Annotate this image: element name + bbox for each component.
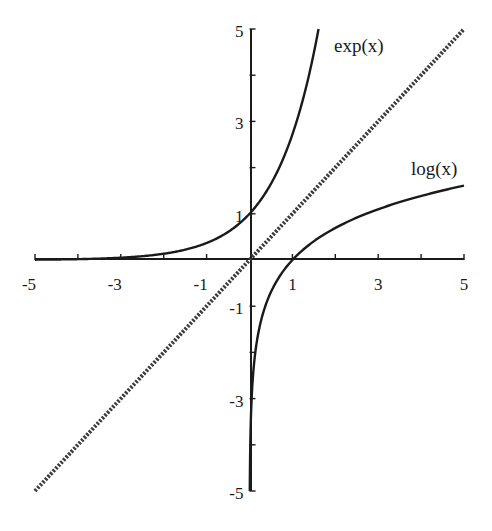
log-curve [250,186,464,491]
y-tick-label: -5 [229,484,243,503]
x-tick-label: -1 [194,275,208,294]
x-tick-label: 1 [288,275,297,294]
y-tick-label: 5 [235,22,244,41]
x-tick-label: 5 [460,275,469,294]
exp-label: exp(x) [334,35,384,57]
x-tick-label: -5 [22,275,36,294]
y-tick-label: -3 [229,392,243,411]
log-label: log(x) [411,158,457,180]
exp-curve [35,29,319,260]
x-tick-label: -3 [108,275,122,294]
x-tick-label: 3 [374,275,383,294]
chart: -5-3-1135 531-1-3-5 exp(x) log(x) [0,0,492,531]
y-tick-label: 3 [235,114,244,133]
y-tick-labels: 531-1-3-5 [229,22,243,503]
y-tick-label: -1 [229,299,243,318]
x-tick-labels: -5-3-1135 [22,275,468,294]
